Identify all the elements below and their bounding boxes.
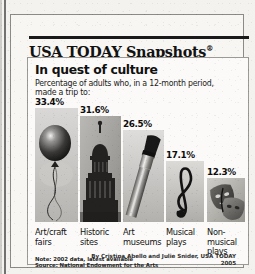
chart-headline: In quest of culture — [35, 62, 158, 77]
scan-gutter-line — [4, 0, 6, 274]
capitol-dome-photo — [80, 116, 121, 222]
chart-panel: In quest of culture Percentage of adults… — [27, 57, 249, 265]
category-label-art-museums: Artmuseums — [123, 228, 164, 247]
bar-value-label-0: 33.4% — [35, 96, 64, 107]
bar-column-musical-plays: 17.1% — [166, 161, 204, 222]
treble-clef-photo — [166, 161, 204, 222]
theater-masks-photo — [207, 178, 245, 222]
category-label-historic-sites: Historicsites — [80, 228, 120, 247]
bar-chart: 33.4% — [35, 100, 245, 222]
bar-column-historic-sites: 31.6% — [80, 116, 121, 222]
category-label-musical-plays: Musicalplays — [166, 228, 204, 247]
registered-trademark-icon: ® — [206, 43, 213, 53]
bar-column-art-craft-fairs: 33.4% — [35, 108, 78, 222]
bar-value-label-4: 12.3% — [207, 166, 236, 177]
byline-credit: By Cristina Abello and Julie Snider, USA… — [14, 253, 236, 260]
byline-year: 2005 — [14, 260, 236, 267]
brand-bar: USA TODAY Snapshots® — [29, 40, 251, 57]
bar-column-non-musical-plays: 12.3% — [207, 178, 245, 222]
bar-value-label-1: 31.6% — [80, 104, 109, 115]
page-edge-shadow — [0, 0, 2, 274]
byline: By Cristina Abello and Julie Snider, USA… — [14, 253, 236, 268]
snapshot-outer-frame: USA TODAY Snapshots® In quest of culture… — [10, 14, 244, 268]
paintbrush-photo — [123, 130, 164, 222]
chart-subtitle: Percentage of adults who, in a 12-month … — [35, 79, 235, 98]
bar-value-label-3: 17.1% — [166, 149, 195, 160]
bar-column-art-museums: 26.5% — [123, 130, 164, 222]
bar-value-label-2: 26.5% — [123, 118, 152, 129]
category-label-art-craft-fairs: Art/craftfairs — [35, 228, 76, 247]
brand-top-rule — [29, 36, 249, 39]
balloon-photo — [35, 108, 78, 222]
